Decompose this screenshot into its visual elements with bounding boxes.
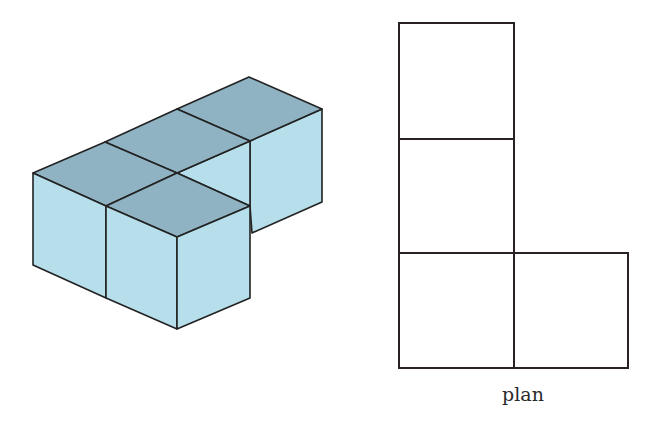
plan-cell-r1c1: [399, 23, 514, 139]
figure: plan: [0, 0, 659, 426]
plan-cell-r2c1: [399, 139, 514, 253]
plan-cell-r3c2: [514, 253, 628, 368]
plan-label: plan: [473, 383, 573, 405]
plan-view-drawing: [0, 0, 659, 426]
plan-cell-r3c1: [399, 253, 514, 368]
